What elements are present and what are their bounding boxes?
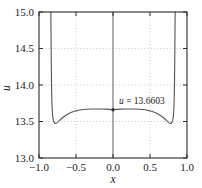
y-tick-label: 14.0 xyxy=(15,79,35,91)
y-axis-title: u xyxy=(0,85,12,91)
x-axis-title: x xyxy=(109,173,116,185)
center-value-annotation: u = 13.6603 xyxy=(119,96,165,106)
y-tick-label: 15.0 xyxy=(15,6,35,18)
x-tick-label: 1.0 xyxy=(180,161,194,173)
y-tick-label: 13.5 xyxy=(15,115,35,127)
y-tick-label: 14.5 xyxy=(15,42,35,54)
line-chart: −1.0−0.50.00.51.0 13.013.514.014.515.0 x… xyxy=(0,0,202,188)
x-tick-label: −0.5 xyxy=(66,161,86,173)
y-tick-label: 13.0 xyxy=(15,152,35,164)
chart-figure: −1.0−0.50.00.51.0 13.013.514.014.515.0 x… xyxy=(0,0,202,188)
x-tick-label: 0.0 xyxy=(106,161,120,173)
x-tick-label: 0.5 xyxy=(143,161,157,173)
annotation-marker-dot xyxy=(111,108,114,111)
